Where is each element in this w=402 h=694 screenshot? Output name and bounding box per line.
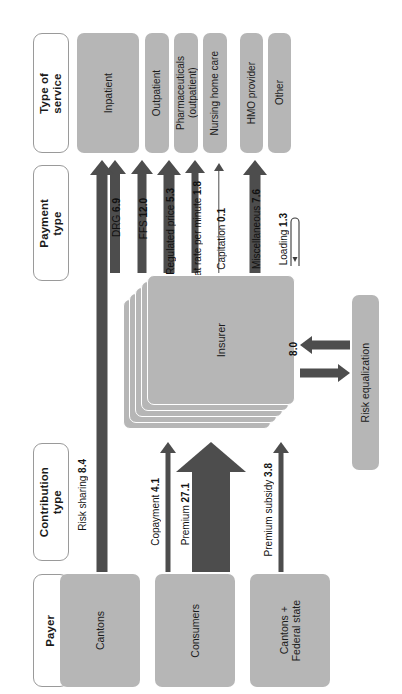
service-node-hmo-provider: HMO provider (240, 33, 263, 153)
column-header-label: Type of service (38, 73, 64, 114)
column-header-label: Contribution type (38, 467, 64, 537)
column-header-type-of-service: Type of service (33, 33, 69, 153)
payer-node-label: Consumers (189, 604, 201, 658)
insurer-node: Insurer (147, 275, 295, 405)
service-node-pharmaceuticals: Pharmaceuticals (outpatient) (174, 33, 198, 153)
service-node-inpatient: Inpatient (77, 33, 139, 153)
contribution-flow-label-premium: Premium 27.1 (180, 483, 191, 545)
payer-node-label: Cantons (94, 611, 106, 650)
arrow-shaft (279, 452, 284, 572)
risk-equalization-value-label: 8.0 (288, 342, 299, 356)
payment-flow-label-loading: Loading 1.3 (278, 213, 289, 265)
service-node-label: HMO provider (246, 62, 258, 124)
service-node-label: Nursing home care (209, 51, 221, 135)
payer-node-cantons-federal-state: Cantons + Federal state (250, 574, 330, 687)
payment-flow-label-flat-rate: Flat rate per minute 1.8 (192, 181, 203, 284)
service-node-label: Inpatient (102, 73, 114, 113)
risk-equalization-node: Risk equalization (352, 295, 379, 470)
payer-node-label: Cantons + Federal state (278, 600, 302, 661)
payment-flow-label-capitation: Capitation 0.1 (216, 208, 227, 270)
column-header-label: Payment type (38, 199, 64, 248)
arrow-shaft (192, 471, 230, 572)
contribution-flow-label-premium-subsidy: Premium subsidy 3.8 (263, 463, 274, 556)
arrow-head-icon (300, 336, 312, 354)
insurer-node-label: Insurer (215, 323, 227, 357)
arrow-shaft (300, 369, 339, 378)
column-header-label: Payer (44, 615, 57, 647)
arrow-shaft (166, 452, 171, 572)
contribution-arrow-risk-sharing (90, 160, 114, 572)
contribution-arrow-copayment (160, 442, 176, 572)
column-header-payment-type: Payment type (33, 165, 69, 281)
service-node-nursing-home-care: Nursing home care (203, 33, 227, 153)
service-node-other: Other (268, 33, 291, 153)
payer-node-consumers: Consumers (155, 574, 235, 687)
risk-equalization-label: Risk equalization (359, 343, 371, 422)
risk-equalization-arrow-in (300, 336, 350, 354)
service-node-label: Pharmaceuticals (outpatient) (175, 56, 198, 130)
contribution-flow-label-copayment: Copayment 4.1 (150, 478, 161, 546)
column-header-contribution-type: Contribution type (33, 443, 69, 561)
payer-node-cantons: Cantons (60, 574, 140, 687)
service-node-label: Other (274, 80, 286, 105)
arrow-head-icon (338, 364, 350, 382)
payment-flow-label-ffs: FFS 12.0 (138, 198, 149, 239)
arrow-head-icon (90, 160, 114, 175)
arrow-shaft (97, 174, 108, 572)
contribution-arrow-premium-subsidy (273, 442, 289, 572)
payment-flow-label-miscellaneous: Miscellaneous 7.6 (251, 189, 262, 269)
arrow-head-icon (176, 442, 246, 472)
payment-flow-label-regulated-price: Regulated price 5.3 (165, 188, 176, 275)
service-node-outpatient: Outpatient (145, 33, 169, 153)
service-node-label: Outpatient (151, 70, 163, 116)
risk-equalization-arrow-out (300, 364, 350, 382)
arrow-shaft (311, 341, 350, 350)
contribution-flow-label-risk-sharing: Risk sharing 8.4 (77, 459, 88, 531)
